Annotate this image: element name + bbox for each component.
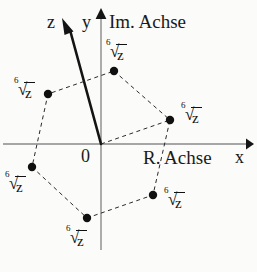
radius-line — [101, 120, 170, 144]
vinculum — [15, 176, 26, 177]
root-point-lower-right — [149, 191, 157, 199]
vinculum — [174, 192, 185, 193]
vinculum — [116, 44, 127, 45]
vector-z-line — [70, 30, 101, 144]
imaginary-axis-label: Im. Achse — [109, 12, 186, 31]
root-point-right — [166, 116, 174, 124]
complex-plane-figure: Im. Achse y z R. Achse x 0 6 √ z 6 √ z 6… — [0, 0, 257, 272]
root-radical-group: √ z — [168, 191, 177, 208]
root-radicand: z — [25, 86, 32, 101]
imaginary-axis-arrowhead — [96, 8, 107, 19]
real-axis-arrowhead — [246, 139, 254, 150]
root-radicand: z — [175, 196, 182, 211]
imaginary-axis-letter: y — [82, 13, 91, 31]
root-radical-group: √ z — [185, 106, 194, 123]
root-point-bottom — [83, 214, 91, 222]
root-radicand: z — [16, 180, 23, 195]
root-radicand: z — [77, 234, 84, 249]
root-radical-group: √ z — [9, 175, 18, 192]
vinculum — [24, 82, 35, 83]
root-radical-group: √ z — [18, 81, 27, 98]
root-radical-group: √ z — [70, 229, 79, 246]
vinculum — [191, 107, 202, 108]
root-radicand: z — [117, 48, 124, 63]
root-radical-group: √ z — [110, 43, 119, 60]
figure-canvas — [0, 0, 257, 272]
root-point-left — [28, 163, 36, 171]
origin-label: 0 — [81, 147, 90, 165]
real-axis-label: R. Achse — [143, 148, 212, 167]
root-point-upper-left — [44, 90, 52, 98]
real-axis — [3, 139, 254, 150]
vector-z-letter: z — [47, 13, 55, 31]
vector-z — [62, 18, 101, 144]
real-axis-letter: x — [235, 148, 244, 166]
root-radicand: z — [192, 111, 199, 126]
root-point-top — [110, 67, 118, 75]
vinculum — [76, 230, 87, 231]
